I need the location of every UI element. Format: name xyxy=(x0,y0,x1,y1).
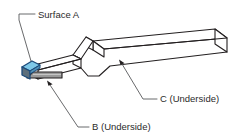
leader-line-surface-c xyxy=(122,64,157,99)
label-surface-c: C (Underside) xyxy=(160,93,219,104)
leader-surface-c xyxy=(119,60,157,100)
leader-arrowhead-surface-b xyxy=(47,81,53,86)
label-surface-a: Surface A xyxy=(38,9,80,20)
underside-c-profile xyxy=(38,52,227,79)
leader-line-surface-b xyxy=(50,85,89,127)
right-arm-top-face xyxy=(93,29,227,49)
technical-diagram-figure: Surface A B (Underside) C (Underside) xyxy=(0,0,232,139)
label-surface-b: B (Underside) xyxy=(92,121,151,132)
leader-surface-b xyxy=(47,81,89,128)
leader-line-surface-a xyxy=(19,14,35,61)
leader-surface-a xyxy=(19,14,35,61)
right-end-chamfer-face xyxy=(215,29,227,52)
bracket-isometric-drawing: Surface A B (Underside) C (Underside) xyxy=(0,0,232,139)
